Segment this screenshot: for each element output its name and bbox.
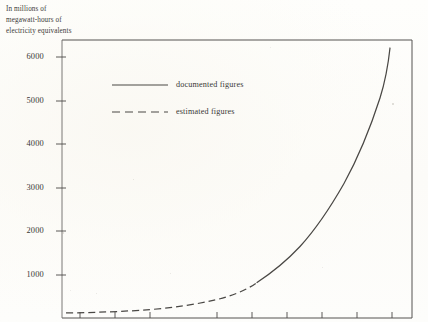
y-tick-label-2000: 2000 [14,226,44,235]
y-tick-label-1000: 1000 [14,270,44,279]
y-tick-label-6000: 6000 [14,52,44,61]
y-axis-ticks [56,57,66,275]
y-tick-label-4000: 4000 [14,139,44,148]
x-axis-ticks [80,312,392,318]
legend-label-estimated-figures: estimated figures [176,107,235,116]
legend-swatches [112,85,168,112]
y-tick-label-5000: 5000 [14,96,44,105]
figure-page: In millions of megawatt-hours of electri… [0,0,428,322]
series-line-documented-figures [257,48,390,283]
chart-plot-area [0,0,428,322]
legend-label-documented-figures: documented figures [176,80,244,89]
y-tick-label-3000: 3000 [14,183,44,192]
series-line-estimated-figures [66,283,257,314]
